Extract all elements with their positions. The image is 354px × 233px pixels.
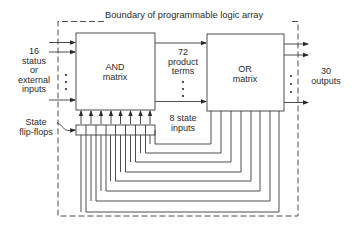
outputs-label: 30 outputs [306, 67, 346, 86]
product-terms-label: 72 product terms [161, 48, 205, 77]
ellipsis-dot [290, 75, 292, 77]
ellipsis-dot [290, 83, 292, 85]
ellipsis-dot [182, 81, 184, 83]
ellipsis-dot [65, 88, 67, 90]
ellipsis-dot [290, 91, 292, 93]
ellipsis-dot [182, 88, 184, 90]
inputs-label: 16 status or external inputs [14, 47, 54, 95]
flipflops-label: State flip-flops [16, 118, 56, 137]
and-matrix-label: AND matrix [95, 63, 135, 82]
state-inputs-label: 8 state inputs [160, 114, 206, 133]
boundary-label: Boundary of programmable logic array [105, 11, 263, 21]
flipflops-pointer [57, 123, 75, 131]
ellipsis-dot [65, 81, 67, 83]
ellipsis-dot [65, 74, 67, 76]
or-matrix-label: OR matrix [225, 65, 265, 84]
ellipsis-dot [182, 95, 184, 97]
